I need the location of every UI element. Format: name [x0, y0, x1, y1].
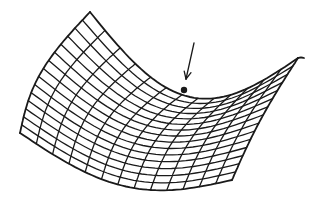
mesh-line-u [49, 60, 268, 130]
mesh-lines [22, 20, 293, 190]
outline-edge [20, 12, 90, 133]
saddle-mesh [0, 0, 315, 220]
arrow-icon [184, 43, 194, 79]
outline-edge [232, 58, 298, 180]
mesh-line-u [26, 109, 243, 169]
saddle-point-dot [181, 87, 187, 93]
mesh-line-u [24, 117, 240, 176]
mesh-line-v [85, 77, 151, 172]
saddle-surface-figure: Wireframe saddle surface with an arrow p… [0, 0, 315, 220]
